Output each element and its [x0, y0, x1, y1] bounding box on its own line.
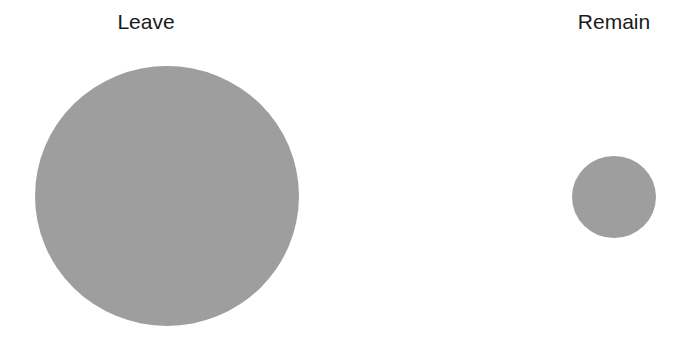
remain-label: Remain	[534, 10, 692, 34]
leave-label: Leave	[66, 10, 226, 34]
remain-circle	[572, 156, 656, 238]
leave-circle	[35, 66, 299, 326]
